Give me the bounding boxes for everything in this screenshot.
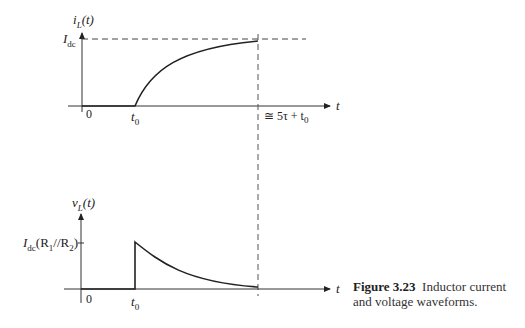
voltage-waveform [81, 242, 258, 289]
top-origin-label: 0 [86, 107, 92, 122]
figure-caption: Figure 3.23 Inductor current and voltage… [353, 279, 525, 309]
current-waveform [82, 41, 258, 106]
bottom-x-label: t [336, 281, 340, 297]
settle-time-label: ≅ 5τ + t0 [264, 109, 308, 125]
caption-number: Figure 3.23 [353, 279, 416, 294]
bottom-ylabel: vL(t) [72, 195, 95, 213]
bottom-level-label: Idc(R1//R2) [23, 235, 78, 253]
top-t0-label: t0 [131, 109, 139, 127]
bottom-origin-label: 0 [86, 292, 92, 307]
top-idc-label: Idc [63, 31, 76, 49]
bottom-plot [64, 214, 330, 303]
top-x-label: t [336, 98, 340, 114]
top-plot [68, 33, 330, 112]
bottom-t0-label: t0 [131, 294, 139, 312]
top-ylabel: iL(t) [73, 12, 94, 30]
